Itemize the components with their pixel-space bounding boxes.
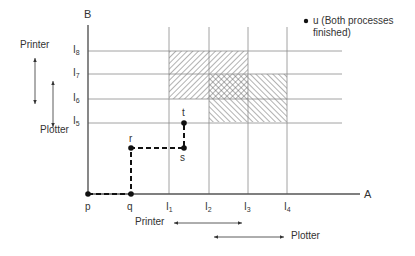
legend-u-line1: u (Both processes [313,15,394,27]
legend-u-line2: finished) [313,27,394,39]
point-t [181,120,187,126]
point-q [128,191,134,197]
x-axis-label: A [364,189,371,200]
point-label-p: p [85,202,91,212]
y-tick-i6: I6 [73,93,80,104]
y-tick-i8: I8 [73,45,80,56]
x-tick-i4: I4 [284,202,291,213]
point-label-t: t [182,108,185,118]
trajectory-path [88,123,184,194]
x-tick-i2: I2 [205,202,212,213]
legend-dot-u [304,19,308,23]
point-s [181,145,187,151]
y-tick-i5: I5 [73,116,80,127]
y-axis-label: B [84,9,91,20]
y-plotter-label: Plotter [40,125,69,135]
point-label-q: q [127,202,133,212]
x-printer-label: Printer [135,217,164,227]
point-r [128,145,134,151]
x-plotter-label: Plotter [291,231,320,241]
point-p [85,191,91,197]
point-label-s: s [180,153,185,163]
legend-u: u (Both processes finished) [313,15,394,39]
x-tick-i1: I1 [166,202,173,213]
y-tick-i7: I7 [73,68,80,79]
x-tick-i3: I3 [244,202,251,213]
point-label-r: r [129,134,132,144]
y-printer-label: Printer [20,40,49,50]
